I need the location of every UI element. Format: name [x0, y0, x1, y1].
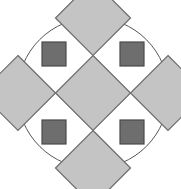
figure-root: Geometric tile pattern A circle containi…: [0, 0, 181, 189]
pattern-diagram: [0, 0, 181, 189]
top-left-square: [42, 42, 66, 66]
top-right-square: [120, 42, 144, 66]
bottom-right-square: [120, 120, 144, 144]
bottom-left-square: [42, 120, 66, 144]
